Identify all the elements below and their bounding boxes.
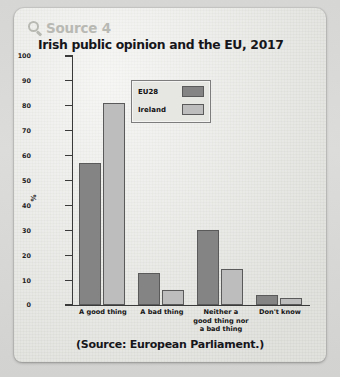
- y-tick: [65, 130, 73, 131]
- category-label: Don't know: [240, 308, 319, 317]
- bar-ireland: [162, 290, 184, 305]
- bar-eu28: [197, 230, 219, 305]
- y-tick: [65, 280, 73, 281]
- bar-group: [250, 56, 309, 305]
- y-tick-label: 90: [14, 77, 31, 85]
- y-tick-label: 60: [14, 152, 31, 160]
- bar-eu28: [138, 273, 160, 305]
- y-tick-label: 30: [14, 227, 31, 235]
- y-tick-label: 100: [14, 52, 31, 60]
- source-header: Source 4: [28, 20, 111, 36]
- bar-eu28: [256, 295, 278, 305]
- y-tick-label: 10: [14, 277, 31, 285]
- magnifier-icon: [28, 21, 43, 36]
- y-tick: [65, 155, 73, 156]
- y-tick-label: 40: [14, 202, 31, 210]
- y-tick: [65, 105, 73, 106]
- y-tick: [65, 55, 73, 56]
- bar-eu28: [79, 163, 101, 305]
- y-tick-label: 0: [14, 301, 31, 309]
- y-tick-label: 20: [14, 252, 31, 260]
- y-tick-label: 80: [14, 102, 31, 110]
- bar-ireland: [221, 269, 243, 305]
- chart-title: Irish public opinion and the EU, 2017: [38, 37, 283, 52]
- page-background: Source 4 Irish public opinion and the EU…: [0, 0, 340, 377]
- y-tick: [65, 304, 73, 305]
- source-panel: Source 4 Irish public opinion and the EU…: [14, 8, 326, 362]
- y-tick: [65, 205, 73, 206]
- source-label: Source 4: [46, 20, 111, 36]
- legend-label-eu28: EU28: [138, 88, 182, 96]
- y-tick-label: 70: [14, 127, 31, 135]
- y-tick: [65, 230, 73, 231]
- bar-group: [73, 56, 132, 305]
- bar-chart: % 0102030405060708090100 A good thingA b…: [14, 8, 326, 362]
- legend-swatch-eu28: [182, 86, 204, 97]
- bar-ireland: [280, 298, 302, 305]
- legend-label-ireland: Ireland: [138, 106, 182, 114]
- y-tick: [65, 80, 73, 81]
- y-tick: [65, 180, 73, 181]
- chart-legend: EU28 Ireland: [131, 80, 211, 123]
- legend-swatch-ireland: [182, 104, 204, 115]
- y-axis-label: %: [30, 194, 38, 201]
- source-caption: (Source: European Parliament.): [14, 338, 326, 351]
- y-tick: [65, 255, 73, 256]
- y-tick-label: 50: [14, 177, 31, 185]
- bar-ireland: [103, 103, 125, 305]
